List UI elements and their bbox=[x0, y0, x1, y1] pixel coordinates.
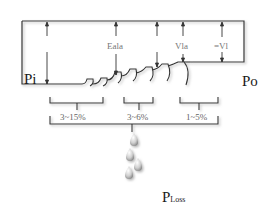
power-loss-label: PLoss bbox=[162, 190, 185, 205]
vl-label: =Vl bbox=[214, 42, 228, 51]
input-power-label: Pi bbox=[24, 72, 37, 87]
rotor-teeth bbox=[82, 62, 190, 86]
segment-3-percent: 1~5% bbox=[186, 113, 207, 122]
loss-droplets bbox=[125, 133, 142, 179]
power-loss-subscript: Loss bbox=[170, 195, 185, 204]
segment-1-percent: 3~15% bbox=[60, 113, 86, 122]
segment-2-percent: 3~6% bbox=[127, 113, 148, 122]
frame-outline bbox=[22, 21, 244, 84]
output-power-label: Po bbox=[242, 74, 258, 89]
power-flow-diagram bbox=[0, 0, 272, 207]
eala-label: Eala bbox=[107, 42, 123, 51]
vla-label: Vla bbox=[175, 42, 188, 51]
voltage-arrows bbox=[46, 22, 224, 84]
